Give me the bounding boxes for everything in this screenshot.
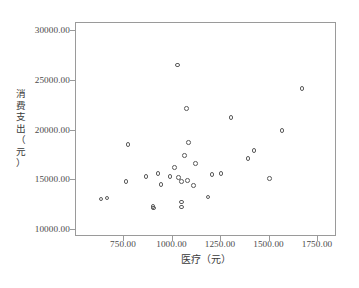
data-point — [179, 200, 184, 205]
data-point — [193, 161, 198, 166]
data-point — [184, 106, 189, 111]
x-axis-tick-mark — [220, 236, 221, 241]
y-axis-tick-text: 10000.00 — [35, 224, 75, 234]
x-axis-tick-mark — [123, 236, 124, 241]
y-axis-tick-text: 30000.00 — [35, 25, 75, 35]
data-point — [219, 171, 224, 176]
data-point — [151, 206, 156, 211]
x-axis-tick-mark — [269, 236, 270, 241]
y-axis-title-char: 元 — [14, 146, 27, 158]
data-point — [159, 182, 164, 187]
data-point — [186, 140, 191, 145]
data-point — [179, 205, 184, 210]
y-axis-tick-label: 25000.00 — [0, 74, 75, 86]
data-point — [175, 63, 180, 68]
data-point — [156, 171, 161, 176]
y-axis-tick-label: 30000.00 — [0, 24, 75, 36]
data-point — [185, 178, 190, 183]
scatter-chart: 消费支出（元） 10000.0015000.0020000.0025000.00… — [0, 0, 359, 288]
y-axis-title-char: 消 — [14, 88, 27, 100]
x-axis-tick-mark — [172, 236, 173, 241]
y-axis-title-char: （ — [14, 134, 27, 146]
x-axis-tick-mark — [317, 236, 318, 241]
y-axis-title-char: ） — [14, 157, 27, 169]
y-axis-tick-label: 20000.00 — [0, 124, 75, 136]
y-axis-tick-label: 15000.00 — [0, 173, 75, 185]
plot-area — [75, 22, 336, 236]
data-point — [144, 174, 149, 179]
y-axis-tick-text: 15000.00 — [35, 174, 75, 184]
data-point — [229, 115, 234, 120]
data-point — [124, 179, 129, 184]
y-axis-title-char: 费 — [14, 100, 27, 112]
data-point — [252, 148, 257, 153]
data-point — [267, 176, 272, 181]
data-point — [210, 172, 215, 177]
data-point — [182, 153, 187, 158]
y-axis-tick-label: 10000.00 — [0, 223, 75, 235]
data-point — [280, 128, 285, 133]
y-axis-title-char: 支 — [14, 111, 27, 123]
y-axis-tick-text: 25000.00 — [35, 75, 75, 85]
data-point — [126, 142, 131, 147]
data-point — [300, 86, 305, 91]
data-point — [246, 156, 251, 161]
data-point — [206, 195, 211, 200]
data-point — [179, 179, 184, 184]
x-axis-title: 医疗（元） — [75, 253, 336, 267]
data-point — [99, 197, 104, 202]
data-point — [105, 196, 110, 201]
data-point — [172, 165, 177, 170]
data-point — [168, 174, 173, 179]
data-point — [191, 183, 196, 188]
y-axis-tick-text: 20000.00 — [35, 125, 75, 135]
